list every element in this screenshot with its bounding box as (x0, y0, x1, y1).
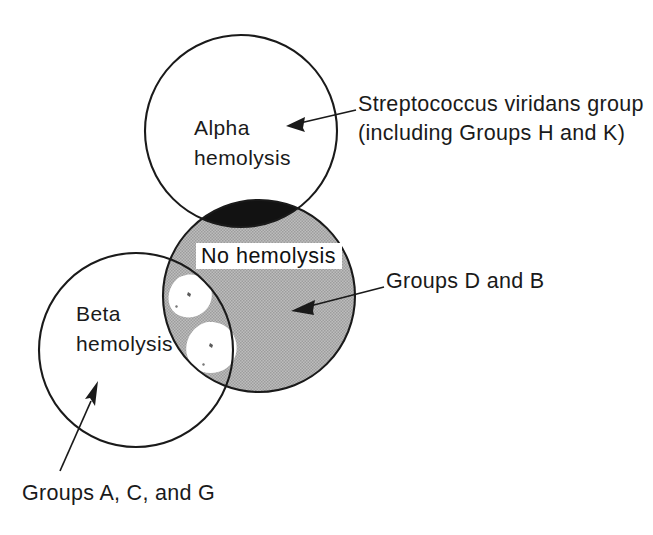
alpha-hemolysis-label-line1: Alpha (194, 116, 250, 139)
strep-viridans-label-line1: Streptococcus viridans group (358, 92, 644, 116)
no-hemolysis-label: No hemolysis (201, 244, 336, 268)
beta-hemolysis-label-line1: Beta (76, 302, 121, 325)
hemolysis-venn-figure: Alpha hemolysis Beta hemolysis No hemoly… (0, 0, 653, 535)
callout-strep-viridans: Streptococcus viridans group (including … (286, 92, 644, 145)
venn-diagram-canvas: Alpha hemolysis Beta hemolysis No hemoly… (0, 0, 653, 535)
alpha-hemolysis-label-line2: hemolysis (194, 146, 291, 169)
groups-a-c-g-label: Groups A, C, and G (22, 481, 215, 505)
beta-hemolysis-label-line2: hemolysis (76, 332, 173, 355)
groups-d-b-label: Groups D and B (386, 269, 544, 293)
strep-viridans-label-line2: (including Groups H and K) (358, 121, 625, 145)
